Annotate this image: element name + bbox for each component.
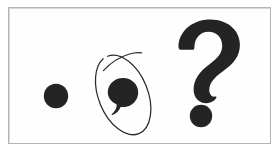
comma-glyph	[108, 78, 138, 115]
glyph-layer	[0, 0, 280, 158]
punctuation-marks-drawing	[0, 0, 280, 158]
mark-question	[178, 19, 239, 127]
mark-comma	[85, 47, 162, 143]
period-dot	[44, 84, 68, 108]
question-mark-hook	[178, 19, 239, 103]
mark-period	[44, 84, 68, 108]
question-mark-dot	[190, 105, 212, 127]
punctuation-figure: period comma question mark	[0, 0, 280, 158]
